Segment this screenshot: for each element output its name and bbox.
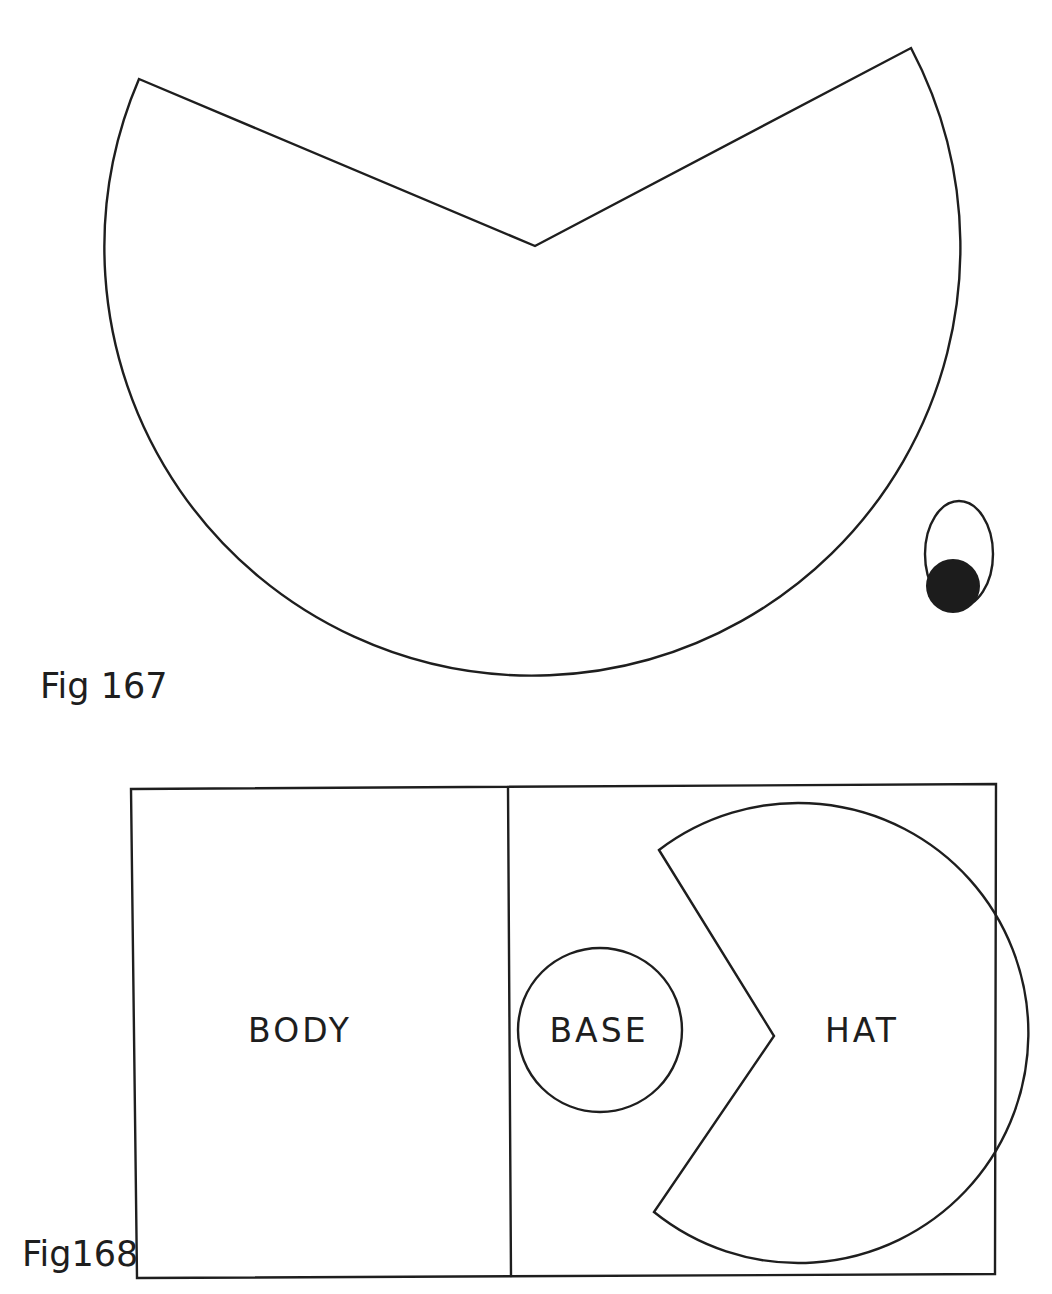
cone-pattern-shape [104, 48, 960, 676]
body-label: BODY [248, 1011, 352, 1050]
fig-168-caption: Fig168 [22, 1234, 138, 1274]
figure-canvas: Fig 167 BODY BASE HAT Fig168 [0, 0, 1052, 1294]
panel-divider [508, 787, 511, 1276]
eye-piece [925, 501, 993, 613]
hat-label: HAT [825, 1011, 899, 1050]
base-label: BASE [549, 1011, 648, 1050]
fig-168: BODY BASE HAT Fig168 [22, 784, 1028, 1278]
fig-167: Fig 167 [40, 48, 993, 706]
fig-167-caption: Fig 167 [40, 666, 167, 706]
eye-pupil [926, 559, 980, 613]
